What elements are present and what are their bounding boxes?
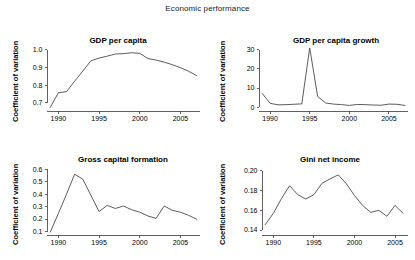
y-tick-label: 0.2	[33, 215, 43, 222]
y-tick-label: 0.5	[33, 178, 43, 185]
x-tick-label: 1990	[51, 239, 67, 246]
series-line	[262, 48, 405, 106]
x-tick-label: 1990	[51, 115, 67, 122]
x-tick-label: 1990	[262, 115, 278, 122]
series-line	[50, 174, 196, 232]
panel-gdp-per-capita-growth: GDP per capita growth Coefficient of var…	[207, 22, 415, 130]
x-tick-label: 2005	[387, 239, 403, 246]
y-tick-label: 0.4	[33, 191, 43, 198]
y-tick-label: 0.3	[33, 203, 43, 210]
economic-performance-figure: Economic performance GDP per capita Coef…	[0, 0, 415, 260]
y-tick-label: 0.20	[244, 167, 258, 174]
series-line	[265, 175, 403, 225]
x-tick-label: 1995	[91, 115, 107, 122]
y-tick-label: 0.7	[33, 99, 43, 106]
x-tick-label: 1995	[306, 239, 322, 246]
x-tick-label: 1990	[266, 239, 282, 246]
y-tick-label: 0.14	[244, 226, 258, 233]
y-tick-label: 20	[247, 65, 255, 72]
panel-gross-capital-formation: Gross capital formation Coefficient of v…	[0, 140, 207, 260]
y-tick-label: 0.16	[244, 207, 258, 214]
series-line	[50, 53, 196, 108]
y-tick-label: 0.18	[244, 187, 258, 194]
x-tick-label: 1995	[91, 239, 107, 246]
panel-title-gini-net-income: Gini net income	[265, 155, 395, 164]
y-axis-label-gdp-per-capita-growth: Coefficient of variation	[218, 41, 227, 122]
y-tick-label: 0.9	[33, 64, 43, 71]
y-tick-label: 0.8	[33, 82, 43, 89]
y-axis-label-gross-capital-formation: Coefficient of variation	[11, 164, 20, 245]
x-tick-label: 2000	[132, 115, 148, 122]
y-tick-label: 1.0	[33, 46, 43, 53]
x-tick-label: 2000	[132, 239, 148, 246]
panel-title-gross-capital-formation: Gross capital formation	[48, 155, 198, 164]
panel-title-gdp-per-capita: GDP per capita	[58, 36, 178, 45]
panel-gdp-per-capita: GDP per capita Coefficient of variation …	[0, 22, 207, 130]
y-tick-label: 10	[247, 84, 255, 91]
x-tick-label: 2005	[173, 115, 189, 122]
x-tick-label: 2005	[173, 239, 189, 246]
y-tick-label: 0.1	[33, 228, 43, 235]
x-tick-label: 2000	[342, 115, 358, 122]
panel-gini-net-income: Gini net income Coefficient of variation…	[207, 140, 415, 260]
panel-title-gdp-per-capita-growth: GDP per capita growth	[261, 36, 411, 45]
x-tick-label: 1995	[302, 115, 318, 122]
y-tick-label: 0	[251, 104, 255, 111]
x-tick-label: 2000	[347, 239, 363, 246]
y-tick-label: 30	[247, 46, 255, 53]
figure-title: Economic performance	[0, 4, 415, 13]
y-axis-label-gdp-per-capita: Coefficient of variation	[11, 41, 20, 122]
x-tick-label: 2005	[381, 115, 397, 122]
y-axis-label-gini-net-income: Coefficient of variation	[218, 164, 227, 245]
y-tick-label: 0.6	[33, 166, 43, 173]
